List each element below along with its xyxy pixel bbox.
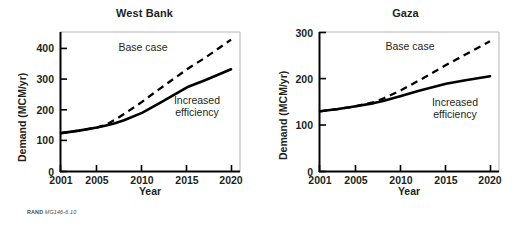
y-tick-label-100: 100: [36, 134, 54, 146]
panel-west-bank: West Bank Demand (MCM/yr) Year 0 100 200…: [0, 0, 263, 205]
annotation-increased-efficiency-line2-west-bank: efficiency: [175, 106, 219, 118]
credit-rand-label: RAND: [27, 209, 43, 215]
plot-area-west-bank: 0 100 200 300 400 2001 2005 2010 2015 20…: [0, 0, 263, 205]
y-tick-label-100: 100: [295, 119, 313, 131]
figure-credit: RAND MG146-6.10: [27, 209, 76, 215]
x-tick-label-2001: 2001: [49, 174, 73, 186]
x-tick-label-2020: 2020: [219, 174, 243, 186]
plot-area-gaza: 0 100 200 300 2001 2005 2010 2015 2020 B…: [263, 0, 526, 205]
x-tick-label-2005: 2005: [344, 174, 368, 186]
x-tick-label-2015: 2015: [175, 174, 199, 186]
series-line-base-case-west-bank: [61, 40, 231, 133]
credit-figure-number: MG146-6.10: [45, 209, 76, 215]
annotation-increased-efficiency-line2-gaza: efficiency: [433, 108, 477, 120]
x-tick-label-2001: 2001: [308, 174, 332, 186]
y-tick-label-300: 300: [36, 73, 54, 85]
annotation-increased-efficiency-line1-gaza: Increased: [432, 96, 478, 108]
x-tick-label-2005: 2005: [85, 174, 109, 186]
y-tick-label-200: 200: [295, 73, 313, 85]
figure-two-panel-demand-chart: West Bank Demand (MCM/yr) Year 0 100 200…: [0, 0, 526, 231]
annotation-increased-efficiency-line1-west-bank: Increased: [174, 94, 220, 106]
y-tick-label-400: 400: [36, 42, 54, 54]
x-tick-label-2010: 2010: [130, 174, 154, 186]
x-tick-label-2010: 2010: [389, 174, 413, 186]
y-tick-label-300: 300: [295, 27, 313, 39]
panel-gaza: Gaza Demand (MCM/yr) Year 0 100 200 300: [263, 0, 526, 205]
annotation-base-case-west-bank: Base case: [118, 41, 167, 53]
x-tick-label-2020: 2020: [478, 174, 502, 186]
annotation-base-case-gaza: Base case: [385, 40, 434, 52]
x-tick-label-2015: 2015: [434, 174, 458, 186]
y-tick-label-200: 200: [36, 104, 54, 116]
